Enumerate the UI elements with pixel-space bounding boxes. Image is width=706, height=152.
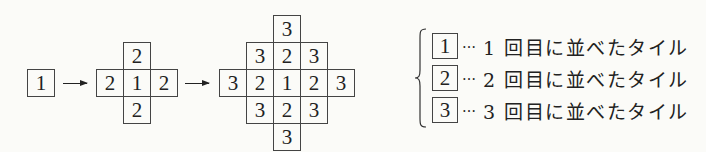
legend-tile: 2	[432, 65, 458, 91]
arrow-icon	[63, 83, 87, 84]
arrow-icon	[185, 83, 209, 84]
tile: 2	[300, 69, 328, 97]
legend-item: 1 … 1 回目に並べたタイル	[432, 32, 689, 60]
tile: 3	[273, 123, 301, 151]
tile: 2	[246, 69, 274, 97]
legend-item: 3 … 3 回目に並べたタイル	[432, 96, 689, 124]
tile: 1	[123, 69, 151, 97]
tile: 3	[327, 69, 355, 97]
tile: 3	[300, 96, 328, 124]
tile: 3	[246, 42, 274, 70]
tile: 2	[96, 69, 124, 97]
tile: 3	[246, 96, 274, 124]
tile: 2	[273, 42, 301, 70]
tile: 1	[273, 69, 301, 97]
legend-text: 2 回目に並べたタイル	[483, 65, 689, 92]
ellipsis: …	[462, 99, 477, 115]
tile: 1	[27, 69, 55, 97]
tile: 2	[150, 69, 178, 97]
tile: 2	[273, 96, 301, 124]
tile: 2	[123, 42, 151, 70]
tile: 3	[273, 15, 301, 43]
ellipsis: …	[462, 35, 477, 51]
legend-item: 2 … 2 回目に並べたタイル	[432, 64, 689, 92]
tile: 3	[300, 42, 328, 70]
ellipsis: …	[462, 67, 477, 83]
legend-tile: 3	[432, 97, 458, 123]
tile: 3	[219, 69, 247, 97]
brace-icon	[414, 28, 428, 128]
tile: 2	[123, 96, 151, 124]
legend-tile: 1	[432, 33, 458, 59]
legend-text: 1 回目に並べたタイル	[483, 33, 689, 60]
legend-text: 3 回目に並べたタイル	[483, 97, 689, 124]
